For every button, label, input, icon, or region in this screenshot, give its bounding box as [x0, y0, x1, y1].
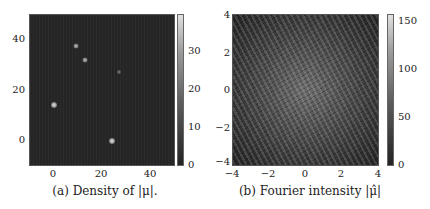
y-tick-label: −2 [215, 123, 230, 133]
y-tick-label: 2 [224, 48, 230, 58]
panel-fourier: 4 2 0 −2 −4 −4 −2 0 2 4 150 100 50 0 (b)… [0, 0, 430, 209]
x-tick-label: −2 [261, 169, 276, 179]
colorbar-tick-label: 100 [398, 64, 417, 74]
x-tick-label: −4 [225, 169, 240, 179]
y-tick-label: 0 [224, 85, 230, 95]
y-tick-label: −4 [215, 157, 230, 167]
fourier-heatmap [232, 14, 379, 166]
x-tick-label: 2 [338, 169, 344, 179]
colorbar-tick-label: 150 [398, 16, 417, 26]
y-tick-label: 4 [224, 10, 230, 20]
colorbar-tick-label: 50 [398, 112, 411, 122]
fourier-colorbar [387, 14, 394, 166]
caption-b: (b) Fourier intensity |μ̂| [239, 184, 381, 198]
x-tick-label: 4 [375, 169, 381, 179]
x-tick-label: 0 [302, 169, 308, 179]
colorbar-tick-label: 0 [398, 160, 404, 170]
